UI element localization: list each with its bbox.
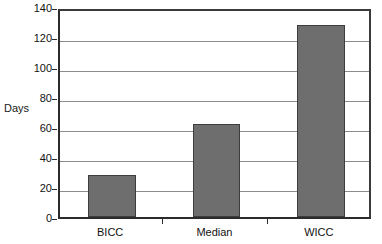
x-tick-label-median: Median [162,226,266,238]
y-tick-label: 100 [22,63,52,74]
x-tick-label-bicc: BICC [58,226,162,238]
y-tick-mark [52,219,57,220]
y-tick-label-wrap: 100 [16,63,52,74]
y-tick-mark [52,159,57,160]
y-tick-label: 80 [22,93,52,104]
y-tick-mark [52,189,57,190]
bars-group [60,11,369,217]
y-tick-label: 40 [22,153,52,164]
x-tick-mark [162,219,163,224]
y-tick-label-wrap: 80 [16,93,52,104]
y-tick-label-wrap: 0 [16,213,52,224]
y-tick-mark [52,39,57,40]
y-tick-label-wrap: 60 [16,123,52,134]
y-tick-mark [52,9,57,10]
y-tick-label: 60 [22,123,52,134]
x-tick-mark [267,219,268,224]
x-tick-label-wicc: WICC [267,226,371,238]
y-tick-label: 140 [22,3,52,14]
y-tick-label: 120 [22,33,52,44]
y-tick-label: 20 [22,183,52,194]
bar-chart: Days 020406080100120140 BICCMedianWICC [0,0,382,244]
y-tick-label-wrap: 120 [16,33,52,44]
y-tick-label-wrap: 140 [16,3,52,14]
bar-wicc[interactable] [297,25,345,217]
y-tick-label-wrap: 40 [16,153,52,164]
y-tick-mark [52,99,57,100]
bar-median[interactable] [193,124,241,217]
plot-area [58,9,371,219]
y-tick-mark [52,129,57,130]
y-tick-label-wrap: 20 [16,183,52,194]
bar-bicc[interactable] [88,175,136,217]
y-tick-label: 0 [22,213,52,224]
y-tick-mark [52,69,57,70]
